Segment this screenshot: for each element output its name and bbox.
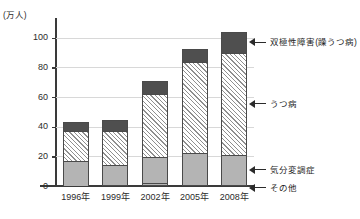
bar-2002年[interactable]	[142, 81, 168, 186]
legend-label-1: うつ病	[270, 99, 297, 109]
legend-callout-2: 気分変調症	[249, 164, 315, 175]
legend-label-2: 気分変調症	[270, 165, 315, 175]
y-tick-label-wrap: 0	[0, 182, 48, 191]
bar-segment-うつ病-1996年[interactable]	[63, 131, 89, 161]
y-tick-mark-100	[52, 38, 56, 39]
y-tick-mark-80	[52, 67, 56, 68]
bar-segment-双極性障害(躁うつ病)-2002年[interactable]	[142, 81, 168, 94]
bar-2005年[interactable]	[182, 49, 208, 186]
y-tick-mark-20	[52, 156, 56, 157]
bar-segment-気分変調症-2005年[interactable]	[182, 153, 208, 185]
y-tick-label-40: 40	[0, 122, 48, 131]
bar-segment-うつ病-2005年[interactable]	[182, 62, 208, 153]
legend-callout-0: 双極性障害(躁うつ病)	[249, 37, 357, 48]
y-tick-label-wrap: 40	[0, 122, 48, 131]
callout-leader-line	[255, 169, 266, 170]
bar-segment-双極性障害(躁うつ病)-1999年[interactable]	[102, 120, 128, 131]
y-tick-label-wrap: 20	[0, 152, 48, 161]
y-tick-label-20: 20	[0, 152, 48, 161]
y-tick-label-wrap: 80	[0, 63, 48, 72]
callout-leader-line	[255, 103, 266, 104]
y-tick-label-60: 60	[0, 93, 48, 102]
plot-area	[56, 23, 254, 186]
callout-leader-line	[255, 42, 266, 43]
bar-segment-双極性障害(躁うつ病)-1996年[interactable]	[63, 122, 89, 131]
bar-segment-双極性障害(躁うつ病)-2005年[interactable]	[182, 49, 208, 62]
bar-segment-うつ病-2002年[interactable]	[142, 94, 168, 157]
bar-segment-気分変調症-2008年[interactable]	[221, 155, 247, 185]
y-axis-unit-label: (万人)	[3, 8, 27, 20]
y-tick-label-wrap: 100	[0, 33, 48, 42]
bar-segment-気分変調症-1996年[interactable]	[63, 161, 89, 186]
bar-1999年[interactable]	[102, 120, 128, 186]
y-tick-mark-40	[52, 127, 56, 128]
legend-label-0: 双極性障害(躁うつ病)	[270, 37, 357, 47]
bar-2008年[interactable]	[221, 32, 247, 186]
legend-callout-3: その他	[249, 182, 297, 193]
bar-segment-うつ病-1999年[interactable]	[102, 131, 128, 165]
legend-label-3: その他	[270, 183, 297, 193]
y-tick-label-0: 0	[0, 182, 48, 191]
y-tick-label-100: 100	[0, 33, 48, 42]
y-tick-mark-60	[52, 97, 56, 98]
bar-segment-うつ病-2008年[interactable]	[221, 53, 247, 155]
y-tick-label-wrap: 60	[0, 93, 48, 102]
bar-segment-気分変調症-2002年[interactable]	[142, 157, 168, 183]
bar-segment-気分変調症-1999年[interactable]	[102, 165, 128, 185]
bar-segment-その他-2002年[interactable]	[142, 183, 168, 186]
y-tick-label-80: 80	[0, 63, 48, 72]
bar-1996年[interactable]	[63, 122, 89, 186]
stacked-bar-chart: (万人) 020406080100 1996年1999年2002年2005年20…	[0, 0, 360, 219]
y-tick-mark-0	[52, 186, 56, 187]
bar-segment-双極性障害(躁うつ病)-2008年[interactable]	[221, 32, 247, 53]
legend-callout-1: うつ病	[249, 98, 297, 109]
callout-leader-line	[255, 187, 266, 188]
